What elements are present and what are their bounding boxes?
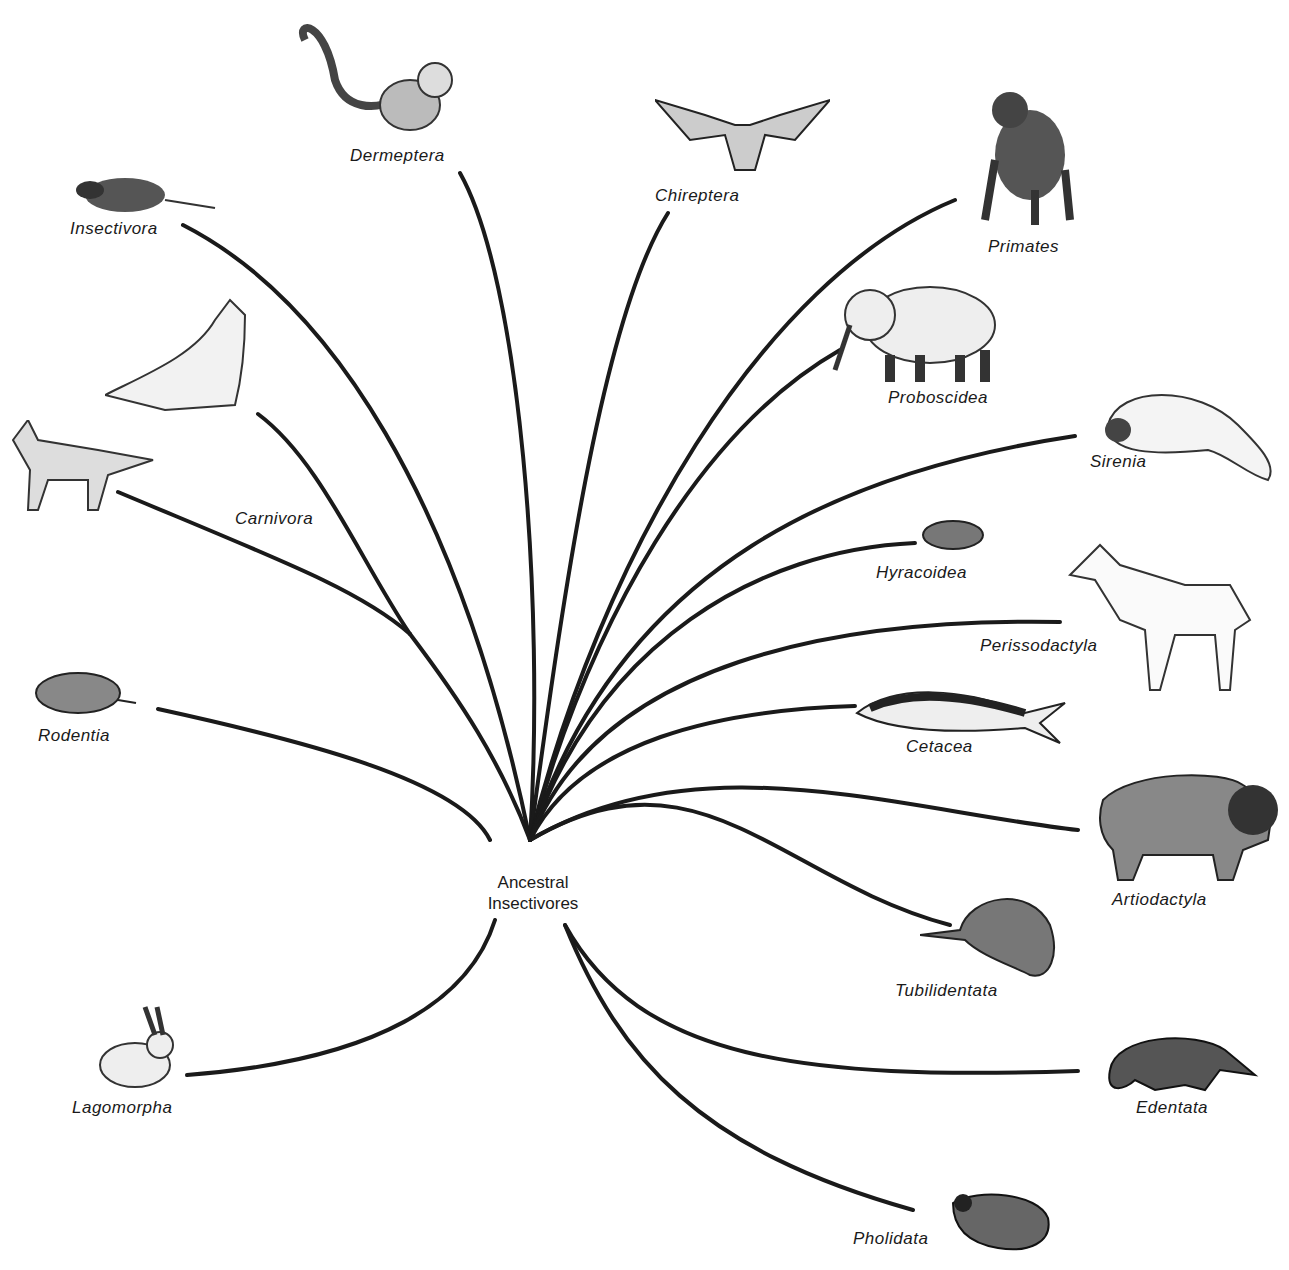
rabbit-icon <box>95 1005 185 1094</box>
colugo-icon <box>295 20 465 144</box>
fox-icon <box>8 420 158 519</box>
label-pholidata: Pholidata <box>853 1229 928 1249</box>
ape-icon <box>975 90 1090 234</box>
aardvark-icon <box>920 885 1065 989</box>
label-cetacea: Cetacea <box>906 737 973 757</box>
branch-artiodactyla <box>530 788 1078 840</box>
bat-icon <box>655 95 830 184</box>
branch-dermeptera <box>460 173 534 840</box>
bison-icon <box>1093 765 1278 889</box>
label-perissodactyla: Perissodactyla <box>980 636 1098 656</box>
shrew-icon <box>70 170 220 224</box>
horse-icon <box>1065 540 1265 699</box>
branch-carnivora-stem <box>410 634 530 840</box>
label-artiodactyla: Artiodactyla <box>1112 890 1207 910</box>
label-carnivora: Carnivora <box>235 509 313 529</box>
pangolin-icon <box>948 1188 1053 1257</box>
label-proboscidea: Proboscidea <box>888 388 988 408</box>
label-chireptera: Chireptera <box>655 186 739 206</box>
label-rodentia: Rodentia <box>38 726 110 746</box>
root-line-1: Ancestral <box>463 872 603 893</box>
elephant-icon <box>830 280 1005 389</box>
root-label: Ancestral Insectivores <box>463 872 603 914</box>
root-line-2: Insectivores <box>463 893 603 914</box>
label-edentata: Edentata <box>1136 1098 1208 1118</box>
rodent-icon <box>28 668 138 722</box>
anteater-icon <box>1095 1030 1260 1104</box>
label-tubilidentata: Tubilidentata <box>895 981 998 1001</box>
branch-rodentia <box>158 709 490 840</box>
seal-icon <box>105 295 250 419</box>
branch-lagomorpha <box>187 920 495 1075</box>
label-lagomorpha: Lagomorpha <box>72 1098 172 1118</box>
label-sirenia: Sirenia <box>1090 452 1146 472</box>
label-primates: Primates <box>988 237 1059 257</box>
label-insectivora: Insectivora <box>70 219 158 239</box>
hyrax-icon <box>918 517 988 556</box>
label-dermeptera: Dermeptera <box>350 146 445 166</box>
label-hyracoidea: Hyracoidea <box>876 563 967 583</box>
phylogeny-diagram: Ancestral Insectivores <box>0 0 1289 1270</box>
